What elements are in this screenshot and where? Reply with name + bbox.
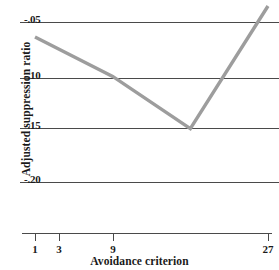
series-polyline (35, 6, 268, 129)
x-tick-label-4: 27 (263, 243, 274, 255)
chart-figure: -.05 -.10 -.15 -.20 1 3 9 27 Adjusted su… (0, 0, 279, 270)
x-axis (22, 233, 272, 241)
x-tick-label-1: 1 (32, 243, 38, 255)
y-axis-title: Adjusted suppression ratio (20, 22, 32, 197)
x-tick-label-2: 3 (56, 243, 62, 255)
data-series-line (35, 6, 268, 129)
x-tick-label-3: 9 (110, 243, 116, 255)
chart-plot-area (0, 0, 279, 270)
x-axis-title: Avoidance criterion (0, 255, 279, 267)
